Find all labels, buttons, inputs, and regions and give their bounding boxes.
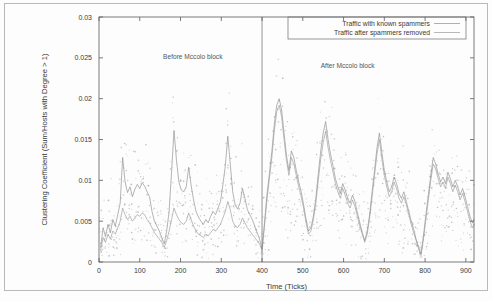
- scatter-point: [141, 181, 142, 182]
- scatter-point: [420, 242, 422, 244]
- scatter-point: [431, 187, 433, 189]
- scatter-point: [126, 212, 127, 213]
- scatter-point: [419, 218, 420, 219]
- scatter-point: [436, 216, 437, 217]
- scatter-point: [427, 219, 428, 220]
- scatter-point: [399, 210, 401, 212]
- scatter-point: [287, 207, 289, 209]
- scatter-point: [292, 136, 293, 137]
- scatter-point: [216, 193, 217, 194]
- y-tick-label: 0.02: [78, 95, 92, 102]
- scatter-point: [200, 232, 202, 234]
- scatter-point: [368, 236, 369, 237]
- scatter-point: [393, 226, 395, 228]
- scatter-point: [230, 206, 231, 207]
- scatter-point: [265, 249, 266, 250]
- scatter-point: [406, 187, 407, 188]
- scatter-point: [147, 195, 148, 196]
- scatter-point: [396, 219, 397, 220]
- scatter-point: [458, 246, 459, 247]
- scatter-point: [350, 217, 351, 218]
- y-tick-label: 0.025: [74, 54, 92, 61]
- scatter-point: [426, 231, 427, 232]
- scatter-point: [458, 186, 459, 187]
- scatter-point: [228, 219, 229, 220]
- scatter-point: [312, 240, 313, 241]
- scatter-point: [444, 191, 445, 192]
- chart-plot: 0100200300400500600700800900 00.0050.010…: [0, 0, 492, 302]
- scatter-point: [117, 206, 118, 207]
- scatter-point: [361, 235, 362, 236]
- scatter-point: [172, 102, 173, 103]
- scatter-point: [331, 203, 332, 204]
- annotation-after-block: After Mccolo block: [321, 62, 376, 69]
- scatter-point: [157, 215, 158, 216]
- scatter-point: [306, 202, 307, 203]
- scatter-point: [345, 202, 347, 204]
- y-tick-labels: 00.0050.010.0150.020.0250.03: [74, 14, 92, 266]
- scatter-point: [388, 217, 389, 218]
- y-tick-label: 0: [88, 259, 92, 266]
- scatter-point: [359, 205, 360, 206]
- scatter-point: [210, 238, 211, 239]
- scatter-point: [275, 182, 276, 183]
- scatter-point: [357, 224, 359, 226]
- scatter-point: [272, 130, 273, 131]
- scatter-point: [120, 161, 121, 162]
- scatter-point: [152, 235, 153, 236]
- scatter-point: [308, 255, 309, 256]
- scatter-point: [237, 236, 238, 237]
- scatter-point: [397, 162, 398, 163]
- scatter-point: [188, 157, 189, 158]
- scatter-point: [353, 194, 354, 195]
- scatter-point: [227, 124, 229, 126]
- scatter-point: [351, 244, 353, 246]
- scatter-point: [267, 254, 268, 255]
- scatter-point: [195, 236, 196, 237]
- scatter-point: [454, 169, 456, 171]
- scatter-point: [311, 190, 313, 192]
- scatter-point: [105, 247, 106, 248]
- scatter-point: [212, 244, 214, 246]
- scatter-point: [421, 236, 422, 237]
- scatter-point: [127, 155, 128, 156]
- scatter-point: [424, 255, 425, 256]
- scatter-point: [212, 207, 214, 209]
- scatter-point: [446, 225, 448, 227]
- scatter-point: [372, 168, 373, 169]
- scatter-point: [223, 234, 225, 236]
- scatter-point: [120, 231, 121, 232]
- scatter-point: [271, 172, 273, 174]
- scatter-point: [347, 187, 348, 188]
- scatter-point: [212, 203, 213, 204]
- scatter-point: [469, 234, 470, 235]
- scatter-point: [322, 155, 324, 157]
- scatter-point: [457, 216, 459, 218]
- scatter-point: [212, 254, 213, 255]
- scatter-point: [153, 209, 154, 210]
- scatter-point: [449, 194, 450, 195]
- scatter-point: [102, 249, 104, 251]
- scatter-point: [333, 186, 334, 187]
- scatter-point: [216, 175, 217, 176]
- scatter-point: [388, 173, 389, 174]
- scatter-point: [405, 185, 406, 186]
- scatter-point: [283, 193, 284, 194]
- scatter-point: [404, 237, 406, 239]
- x-tick-labels: 0100200300400500600700800900: [97, 267, 472, 274]
- scatter-point: [423, 190, 425, 192]
- scatter-point: [189, 219, 190, 220]
- scatter-point: [213, 224, 215, 226]
- scatter-point: [363, 224, 364, 225]
- scatter-point: [379, 209, 381, 211]
- scatter-point: [319, 141, 320, 142]
- scatter-point: [244, 214, 245, 215]
- scatter-point: [241, 211, 242, 212]
- scatter-point: [181, 193, 182, 194]
- scatter-point: [417, 222, 419, 224]
- scatter-point: [287, 213, 288, 214]
- scatter-point: [465, 193, 466, 194]
- scatter-point: [265, 170, 267, 172]
- scatter-point: [238, 208, 240, 210]
- scatter-point: [355, 175, 357, 177]
